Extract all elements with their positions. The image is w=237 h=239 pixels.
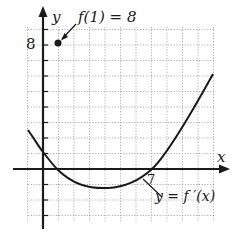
y-axis-label: y xyxy=(51,8,61,26)
y-axis-arrow-icon xyxy=(39,6,48,17)
graph: y x 8 7 f(1) = 8 y = f ′(x) xyxy=(0,0,237,239)
x-axis-label: x xyxy=(217,148,226,166)
x-tick-label-7: 7 xyxy=(147,172,155,187)
curve-label: y = f ′(x) xyxy=(154,188,215,204)
y-tick-label-8: 8 xyxy=(26,35,36,53)
point-annotation: f(1) = 8 xyxy=(77,8,136,26)
point-f1 xyxy=(55,40,62,47)
